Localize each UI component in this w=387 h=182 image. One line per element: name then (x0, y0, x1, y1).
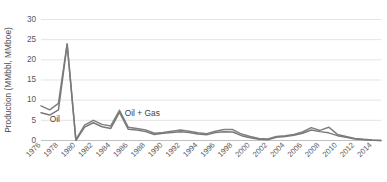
annotation-label: Oil (50, 114, 60, 124)
y-tick-label: 20 (27, 55, 37, 64)
y-axis-title: Production (MMbbl, MMboe) (3, 27, 13, 133)
chart-canvas: 051015202530 197619781980198219841986198… (0, 0, 387, 182)
annotation-label: Oil + Gas (125, 108, 160, 118)
line-chart: 051015202530 197619781980198219841986198… (0, 0, 387, 182)
y-tick-label: 25 (27, 35, 37, 44)
y-tick-label: 5 (31, 116, 36, 125)
y-tick-label: 15 (27, 75, 37, 84)
y-tick-label: 30 (27, 15, 37, 24)
y-tick-label: 10 (27, 95, 37, 104)
